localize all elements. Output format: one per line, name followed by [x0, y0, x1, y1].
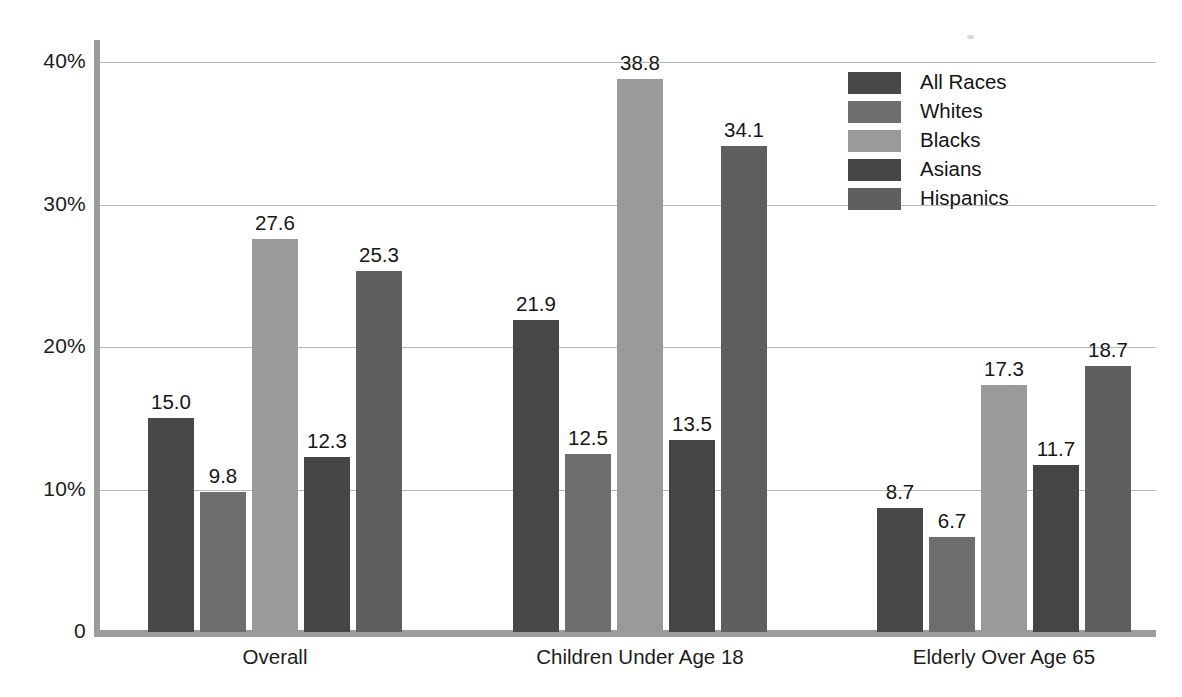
legend-swatch-icon	[848, 188, 901, 210]
y-axis-tick-label: 0	[74, 619, 86, 643]
bar-value-label: 17.3	[959, 357, 1049, 381]
legend-item-label: Blacks	[920, 130, 980, 151]
legend-item-label: Whites	[920, 101, 983, 122]
bar	[565, 454, 611, 632]
bar	[1085, 366, 1131, 632]
bar-value-label: 38.8	[595, 51, 685, 75]
bar	[304, 457, 350, 632]
bar-value-label: 27.6	[230, 211, 320, 235]
bar-value-label: 18.7	[1063, 338, 1153, 362]
bar-value-label: 21.9	[491, 292, 581, 316]
bar-value-label: 15.0	[126, 390, 216, 414]
legend-swatch-icon	[848, 130, 901, 152]
legend-item: Hispanics	[848, 184, 1108, 213]
legend-item: Blacks	[848, 126, 1108, 155]
legend-item-label: All Races	[920, 72, 1007, 93]
legend-item: Whites	[848, 97, 1108, 126]
legend-swatch-icon	[848, 72, 901, 94]
legend-item: All Races	[848, 68, 1108, 97]
bar	[513, 320, 559, 632]
bar-value-label: 34.1	[699, 118, 789, 142]
bar	[617, 79, 663, 632]
legend-item-label: Hispanics	[920, 188, 1009, 209]
bar-chart: 010%20%30%40% 15.09.827.612.325.3Overall…	[0, 0, 1182, 697]
bar	[721, 146, 767, 632]
scan-artifact	[967, 35, 974, 39]
y-axis-tick-label: 20%	[43, 334, 86, 358]
legend-item: Asians	[848, 155, 1108, 184]
bar-value-label: 8.7	[855, 480, 945, 504]
y-axis-tick-label: 10%	[43, 477, 86, 501]
chart-legend: All RacesWhitesBlacksAsiansHispanics	[848, 68, 1108, 213]
y-axis-tick-label: 30%	[43, 192, 86, 216]
bar	[929, 537, 975, 632]
x-axis-category-label: Elderly Over Age 65	[727, 645, 1182, 669]
legend-swatch-icon	[848, 101, 901, 123]
legend-item-label: Asians	[920, 159, 982, 180]
bar-value-label: 25.3	[334, 243, 424, 267]
y-axis-line	[94, 40, 100, 635]
bar	[148, 418, 194, 632]
bar	[200, 492, 246, 632]
bar	[981, 385, 1027, 632]
bar	[1033, 465, 1079, 632]
legend-swatch-icon	[848, 159, 901, 181]
bar	[669, 440, 715, 632]
bar	[356, 271, 402, 632]
y-axis-tick-label: 40%	[43, 49, 86, 73]
